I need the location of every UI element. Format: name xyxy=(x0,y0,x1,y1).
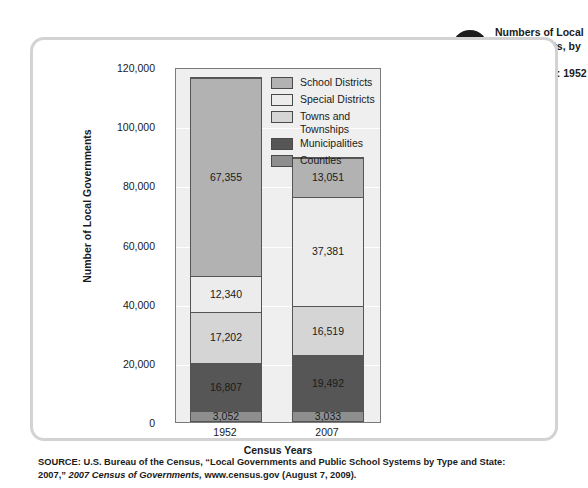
figure-card: Number of Local Governments 020,00040,00… xyxy=(30,37,558,441)
x-axis-title: Census Years xyxy=(175,444,381,456)
bar-segment-value: 67,355 xyxy=(210,172,242,183)
bar-segment-value: 16,807 xyxy=(210,382,242,393)
y-tick-label-80000: 80,000 xyxy=(123,180,155,192)
bar-segment-2007-counties[interactable]: 3,033 xyxy=(293,412,363,421)
y-tick-label-20000: 20,000 xyxy=(123,358,155,370)
y-tick-label-60000: 60,000 xyxy=(123,240,155,252)
y-tick-label-40000: 40,000 xyxy=(123,299,155,311)
legend-item-towns-and-townships[interactable]: Towns and Townships xyxy=(271,110,381,135)
y-axis-tick-labels: 020,00040,00060,00080,000100,000120,000 xyxy=(93,68,161,423)
bar-segment-1952-counties[interactable]: 3,052 xyxy=(191,412,261,421)
legend-swatch-icon xyxy=(271,77,293,89)
legend-item-label: School Districts xyxy=(300,76,372,89)
bar-segment-1952-towns-and-townships[interactable]: 17,202 xyxy=(191,312,261,363)
legend-swatch-icon xyxy=(271,155,293,167)
bar-segment-2007-towns-and-townships[interactable]: 16,519 xyxy=(293,306,363,354)
legend-swatch-icon xyxy=(271,111,293,123)
legend-swatch-icon xyxy=(271,138,293,150)
legend-item-school-districts[interactable]: School Districts xyxy=(271,76,381,91)
bar-segment-2007-special-districts[interactable]: 37,381 xyxy=(293,197,363,307)
bar-segment-value: 37,381 xyxy=(312,246,344,257)
bar-segment-1952-special-districts[interactable]: 12,340 xyxy=(191,276,261,312)
bar-segment-value: 17,202 xyxy=(210,332,242,343)
legend-item-municipalities[interactable]: Municipalities xyxy=(271,137,381,152)
legend-item-label: Counties xyxy=(300,154,341,167)
legend-item-counties[interactable]: Counties xyxy=(271,154,381,169)
y-axis-title: Number of Local Governments xyxy=(81,116,93,296)
bar-segment-value: 3,052 xyxy=(213,411,239,422)
x-axis-tick-labels: 1952 2007 xyxy=(175,426,381,442)
legend-item-special-districts[interactable]: Special Districts xyxy=(271,93,381,108)
source-note-italic: 2007 Census of Governments, xyxy=(69,470,202,480)
legend-swatch-icon xyxy=(271,94,293,106)
legend-item-label: Towns and Townships xyxy=(300,110,381,135)
legend-item-label: Special Districts xyxy=(300,93,375,106)
bar-segment-value: 3,033 xyxy=(315,411,341,422)
x-tick-label-1952: 1952 xyxy=(189,426,261,438)
chart-legend: School DistrictsSpecial DistrictsTowns a… xyxy=(269,72,383,175)
stacked-bar-1952[interactable]: 3,05216,80717,20212,34067,355 xyxy=(190,77,262,422)
chart-region: Number of Local Governments 020,00040,00… xyxy=(33,40,561,444)
x-tick-label-2007: 2007 xyxy=(291,426,363,438)
source-note: SOURCE: U.S. Bureau of the Census, “Loca… xyxy=(38,456,508,482)
bar-segment-value: 19,492 xyxy=(312,378,344,389)
y-tick-label-100000: 100,000 xyxy=(117,121,155,133)
y-tick-label-120000: 120,000 xyxy=(117,62,155,74)
source-note-suffix: www.census.gov (August 7, 2009). xyxy=(202,470,357,480)
legend-item-label: Municipalities xyxy=(300,137,363,150)
bar-segment-value: 12,340 xyxy=(210,289,242,300)
stacked-bar-2007[interactable]: 3,03319,49216,51937,38113,051 xyxy=(292,157,364,422)
bar-segment-value: 16,519 xyxy=(312,326,344,337)
y-tick-label-0: 0 xyxy=(149,417,155,429)
bar-segment-1952-school-districts[interactable]: 67,355 xyxy=(191,78,261,276)
bar-segment-2007-municipalities[interactable]: 19,492 xyxy=(293,355,363,412)
bar-segment-1952-municipalities[interactable]: 16,807 xyxy=(191,363,261,412)
